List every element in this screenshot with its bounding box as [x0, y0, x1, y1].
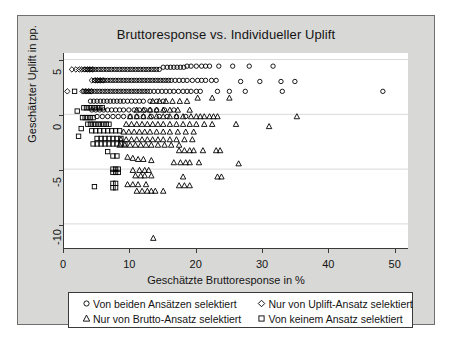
legend-label: Von beiden Ansätzen selektiert: [93, 298, 237, 310]
x-tick-label: 40: [315, 258, 341, 270]
chart-title: Bruttoresponse vs. Individueller Uplift: [18, 27, 434, 42]
legend-item[interactable]: Nur von Brutto-Ansatz selektiert: [77, 311, 245, 326]
y-tick-label: 0: [51, 114, 63, 140]
x-tick-mark: [328, 249, 329, 253]
scatter-points-layer: [64, 53, 408, 248]
legend-item[interactable]: Nur von Uplift-Ansatz selektiert: [245, 296, 413, 311]
x-tick-label: 10: [116, 258, 142, 270]
x-tick-label: 50: [382, 258, 408, 270]
square-marker-icon: [255, 313, 269, 324]
x-tick-label: 30: [249, 258, 275, 270]
x-axis-label: Geschätzte Bruttoresponse in %: [18, 274, 434, 286]
plot-area: [63, 53, 408, 249]
legend-label: Nur von Uplift-Ansatz selektiert: [269, 298, 413, 310]
legend: Von beiden Ansätzen selektiertNur von Up…: [68, 292, 413, 328]
x-tick-mark: [129, 249, 130, 253]
x-tick-mark: [262, 249, 263, 253]
y-axis-label: Geschätzter Uplift in pp.: [26, 9, 38, 159]
triangle-marker-icon: [79, 313, 93, 324]
x-tick-label: 0: [50, 258, 76, 270]
legend-label: Nur von Brutto-Ansatz selektiert: [93, 313, 241, 325]
x-tick-mark: [196, 249, 197, 253]
legend-label: Von keinem Ansatz selektiert: [269, 313, 403, 325]
legend-item[interactable]: Von keinem Ansatz selektiert: [245, 311, 413, 326]
circle-marker-icon: [79, 298, 93, 309]
y-tick-label: -5: [51, 169, 63, 195]
diamond-marker-icon: [255, 298, 269, 309]
x-tick-mark: [395, 249, 396, 253]
x-tick-mark: [63, 249, 64, 253]
figure-frame: Bruttoresponse vs. Individueller Uplift …: [17, 15, 435, 325]
x-tick-label: 20: [183, 258, 209, 270]
y-tick-label: -10: [51, 224, 63, 250]
legend-item[interactable]: Von beiden Ansätzen selektiert: [77, 296, 245, 311]
y-tick-label: 5: [51, 59, 63, 85]
